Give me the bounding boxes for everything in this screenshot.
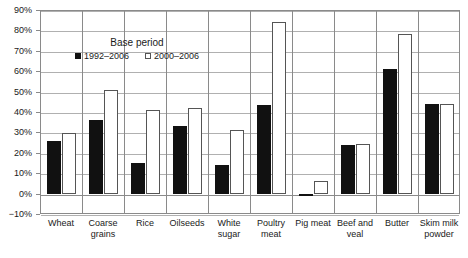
x-tick-label-line: veal xyxy=(334,229,376,240)
y-tick-label: 70% xyxy=(14,46,32,55)
y-tick-mark xyxy=(36,71,40,72)
y-tick-mark xyxy=(36,173,40,174)
gridline xyxy=(41,72,459,73)
y-tick-mark xyxy=(36,51,40,52)
x-tick-label: Pig meat xyxy=(292,218,334,229)
y-tick-label: 80% xyxy=(14,26,32,35)
y-tick-mark xyxy=(36,10,40,11)
y-tick-label: 30% xyxy=(14,128,32,137)
x-tick-label: Skim milkpowder xyxy=(418,218,460,240)
y-tick-label: −10% xyxy=(9,210,32,219)
x-tick-label-line: grains xyxy=(82,229,124,240)
legend-entry: 1992–2006 xyxy=(75,51,129,61)
y-tick-label: 50% xyxy=(14,87,32,96)
x-tick-label: Coarsegrains xyxy=(82,218,124,240)
x-tick-label-line: Beef and xyxy=(334,218,376,229)
gridline xyxy=(41,154,459,155)
legend-entry-label: 2000–2006 xyxy=(154,51,199,61)
legend-title: Base period xyxy=(62,36,212,49)
x-tick-label: Butter xyxy=(376,218,418,229)
y-tick-mark xyxy=(36,112,40,113)
gridline xyxy=(41,133,459,134)
x-tick-label-line: sugar xyxy=(208,229,250,240)
legend-entry-label: 1992–2006 xyxy=(84,51,129,61)
x-tick-label-line: Rice xyxy=(124,218,166,229)
y-tick-label: 40% xyxy=(14,108,32,117)
x-tick-label: Beef andveal xyxy=(334,218,376,240)
bar-chart: 90%80%70%60%50%40%30%20%10%0%−10% WheatC… xyxy=(0,0,468,258)
y-tick-label: 20% xyxy=(14,148,32,157)
x-tick-label: Whitesugar xyxy=(208,218,250,240)
y-tick-mark xyxy=(36,194,40,195)
y-tick-mark xyxy=(36,214,40,215)
x-tick-label-line: Pig meat xyxy=(292,218,334,229)
x-tick-label: Rice xyxy=(124,218,166,229)
y-tick-label: 90% xyxy=(14,6,32,15)
filled-square-icon xyxy=(75,53,81,59)
x-axis: WheatCoarsegrainsRiceOilseedsWhitesugarP… xyxy=(40,218,460,254)
y-tick-label: 60% xyxy=(14,67,32,76)
gridline xyxy=(41,11,459,12)
legend: Base period 1992–20062000–2006 xyxy=(62,36,212,61)
gridline xyxy=(41,215,459,216)
x-tick-label: Wheat xyxy=(40,218,82,229)
x-tick-label-line: White xyxy=(208,218,250,229)
gridline xyxy=(41,31,459,32)
gridline xyxy=(41,195,459,196)
y-tick-label: 0% xyxy=(19,189,32,198)
x-tick-label-line: Skim milk xyxy=(418,218,460,229)
x-tick-label-line: Butter xyxy=(376,218,418,229)
y-tick-mark xyxy=(36,153,40,154)
gridline xyxy=(41,93,459,94)
x-tick-label-line: powder xyxy=(418,229,460,240)
x-tick-label-line: Wheat xyxy=(40,218,82,229)
y-axis: 90%80%70%60%50%40%30%20%10%0%−10% xyxy=(0,10,36,214)
legend-entries: 1992–20062000–2006 xyxy=(62,51,212,61)
y-tick-label: 10% xyxy=(14,169,32,178)
legend-entry: 2000–2006 xyxy=(145,51,199,61)
y-tick-mark xyxy=(36,92,40,93)
x-tick-label: Poultrymeat xyxy=(250,218,292,240)
open-square-icon xyxy=(145,53,151,59)
gridline xyxy=(41,113,459,114)
x-tick-label-line: Oilseeds xyxy=(166,218,208,229)
x-tick-label-line: Poultry xyxy=(250,218,292,229)
y-tick-mark xyxy=(36,30,40,31)
x-tick-label-line: Coarse xyxy=(82,218,124,229)
x-tick-label: Oilseeds xyxy=(166,218,208,229)
y-tick-mark xyxy=(36,132,40,133)
gridline xyxy=(41,174,459,175)
x-tick-label-line: meat xyxy=(250,229,292,240)
